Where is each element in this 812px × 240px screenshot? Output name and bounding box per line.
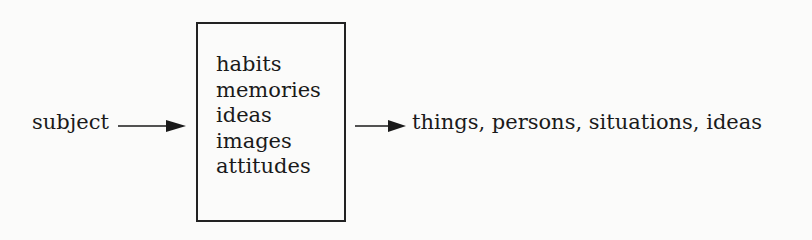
arrow-output-icon	[355, 120, 406, 132]
box-item-list: habits memories ideas images attitudes	[216, 52, 321, 180]
box-item: attitudes	[216, 154, 321, 180]
box-item: memories	[216, 78, 321, 104]
box-item: ideas	[216, 103, 321, 129]
output-label: things, persons, situations, ideas	[412, 112, 762, 133]
box-item: habits	[216, 52, 321, 78]
arrow-input-icon	[118, 120, 186, 132]
box-item: images	[216, 129, 321, 155]
